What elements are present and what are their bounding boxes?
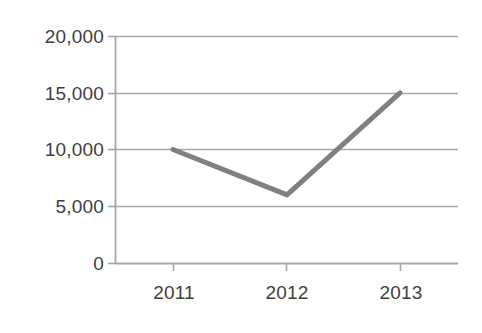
line-chart: 20,000 15,000 10,000 5,000 0 2011 2012 2…: [0, 0, 482, 333]
y-axis-label-10000: 10,000: [4, 140, 104, 159]
x-axis-label-2012: 2012: [247, 283, 327, 303]
y-axis-label-20000: 20,000: [4, 27, 104, 46]
x-axis-label-2013: 2013: [361, 283, 441, 303]
series-line: [173, 93, 400, 195]
y-axis-label-15000: 15,000: [4, 84, 104, 103]
y-axis-label-0: 0: [4, 254, 104, 273]
y-axis-label-5000: 5,000: [4, 197, 104, 216]
x-axis-label-2011: 2011: [134, 283, 214, 303]
